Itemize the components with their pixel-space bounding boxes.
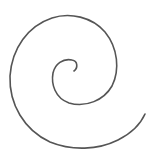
background [0, 0, 156, 158]
spiral-canvas [0, 0, 156, 158]
